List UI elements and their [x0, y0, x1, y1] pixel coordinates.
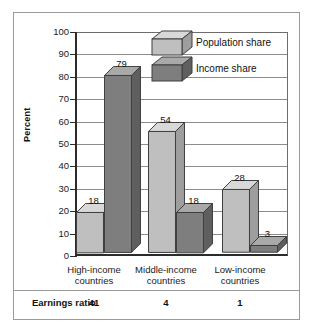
- bar-value-label: 18: [88, 195, 99, 206]
- earnings-ratio-separator: [14, 290, 299, 291]
- y-tick-mark: [70, 166, 77, 167]
- y-tick-label: 40: [43, 162, 69, 172]
- y-tick-label: 50: [43, 139, 69, 149]
- y-tick-label: 0: [43, 251, 69, 261]
- bar-population-share: [76, 214, 103, 254]
- earnings-ratio-value-2: 4: [163, 297, 168, 308]
- y-tick-mark: [70, 77, 77, 78]
- y-tick-label: 100: [43, 27, 69, 37]
- bar-value-label: 28: [234, 172, 245, 183]
- y-tick-mark: [70, 99, 77, 100]
- y-tick-mark: [70, 54, 77, 55]
- category-label-line1: Low-income: [214, 264, 265, 275]
- category-label-line1: Middle-income: [135, 264, 197, 275]
- y-tick-label: 80: [43, 72, 69, 82]
- category-label-line2: countries: [214, 275, 265, 286]
- y-tick-label: 70: [43, 94, 69, 104]
- y-axis-label: Percent: [22, 108, 32, 142]
- category-label-line2: countries: [67, 275, 120, 286]
- y-tick-label: 90: [43, 50, 69, 60]
- bar-income-share: [176, 214, 203, 254]
- y-tick-label: 20: [43, 206, 69, 216]
- y-tick-label: 60: [43, 117, 69, 127]
- earnings-ratio-label: Earnings ratio: [32, 297, 96, 308]
- bar-value-label: 79: [116, 58, 127, 69]
- bar-value-label: 3: [265, 228, 270, 239]
- bar-population-share: [148, 133, 175, 254]
- earnings-ratio-value-3: 1: [237, 297, 242, 308]
- bar-income-share: [250, 247, 277, 254]
- bar-population-share: [222, 191, 249, 254]
- bar-value-label: 18: [188, 195, 199, 206]
- y-tick-mark: [70, 189, 77, 190]
- chart-figure: Percent 0102030405060708090100 Populatio…: [0, 0, 314, 333]
- bar-income-share: [104, 77, 131, 254]
- category-label-line1: High-income: [67, 264, 120, 275]
- earnings-ratio-value-1: 41: [89, 297, 100, 308]
- y-tick-label: 10: [43, 229, 69, 239]
- y-tick-mark: [70, 256, 77, 257]
- category-label: Low-incomecountries: [214, 264, 265, 286]
- y-tick-mark: [70, 32, 77, 33]
- dark-cube-icon: [151, 56, 193, 86]
- category-label-line2: countries: [135, 275, 197, 286]
- y-tick-mark: [70, 144, 77, 145]
- legend-label-population-share: Population share: [196, 37, 271, 48]
- category-label: High-incomecountries: [67, 264, 120, 286]
- y-tick-label: 30: [43, 184, 69, 194]
- legend-label-income-share: Income share: [196, 63, 257, 74]
- y-tick-mark: [70, 122, 77, 123]
- category-label: Middle-incomecountries: [135, 264, 197, 286]
- bar-value-label: 54: [160, 114, 171, 125]
